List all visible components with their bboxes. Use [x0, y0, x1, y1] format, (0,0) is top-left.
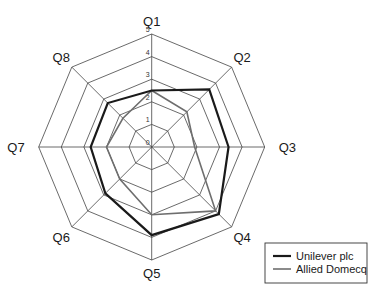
axis-label-q1: Q1 — [143, 14, 160, 29]
series-line-allied-domecq — [107, 91, 216, 215]
tick-label: 1 — [146, 116, 150, 123]
legend-label-allied-domecq: Allied Domecq — [296, 263, 367, 275]
axis-label-q2: Q2 — [234, 50, 251, 65]
axis-label-q6: Q6 — [53, 230, 70, 245]
axis-label-q8: Q8 — [53, 50, 70, 65]
radar-chart: 012345 Q1Q2Q3Q4Q5Q6Q7Q8 Unilever plc All… — [0, 0, 386, 296]
tick-label: 4 — [146, 49, 150, 56]
axis-label-q5: Q5 — [143, 266, 160, 281]
axis-label-q3: Q3 — [279, 140, 296, 155]
axis-label-q7: Q7 — [7, 140, 24, 155]
series — [91, 89, 229, 235]
legend-label-unilever: Unilever plc — [296, 250, 354, 262]
legend: Unilever plc Allied Domecq — [265, 243, 367, 283]
series-line-unilever-plc — [91, 89, 229, 235]
tick-labels: 012345 — [146, 26, 150, 146]
tick-label: 0 — [146, 139, 150, 146]
axis-label-q4: Q4 — [234, 230, 251, 245]
grid — [39, 34, 265, 260]
tick-label: 3 — [146, 71, 150, 78]
